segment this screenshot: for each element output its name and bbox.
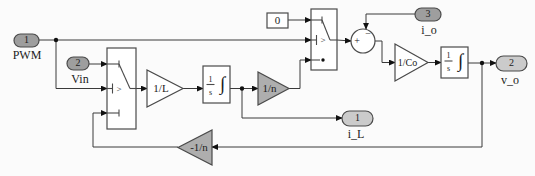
wire-integrator1-to-outport-il[interactable] xyxy=(242,89,342,119)
inport-vin-number: 2 xyxy=(76,57,81,68)
gain-neg1n-label: -1/n xyxy=(190,141,208,153)
inport-pwm-label: PWM xyxy=(13,48,42,62)
svg-text:s: s xyxy=(447,64,450,73)
inport-vin-label: Vin xyxy=(71,72,88,86)
gain-1n-block[interactable]: 1/n xyxy=(258,72,289,105)
sum-block[interactable]: + − xyxy=(351,28,375,53)
gain-1Co-label: 1/Co xyxy=(398,57,417,68)
sum-minus-sign: − xyxy=(365,28,371,39)
wire-io-to-sum[interactable] xyxy=(366,14,415,29)
inport-io-label: i_o xyxy=(421,23,436,37)
svg-text:1: 1 xyxy=(209,75,213,84)
switch2-lower-port-icon xyxy=(321,58,324,61)
gain-neg1n-block[interactable]: -1/n xyxy=(178,130,212,165)
wire-sum-to-gain1Co[interactable] xyxy=(375,41,395,63)
integrator2-block[interactable]: 1 s ∫ xyxy=(441,47,468,78)
junction-dot-il xyxy=(240,86,244,90)
outport-vo-number: 2 xyxy=(509,57,514,68)
inport-pwm-number: 1 xyxy=(24,34,29,45)
junction-dot-pwm xyxy=(54,38,58,42)
integrator1-block[interactable]: 1 s ∫ xyxy=(203,66,230,103)
switch1-criteria-label: > xyxy=(116,84,121,94)
svg-text:1: 1 xyxy=(447,51,451,60)
constant-value: 0 xyxy=(275,14,281,26)
outport-vo[interactable]: 2 v_o xyxy=(496,56,527,87)
constant-block[interactable]: 0 xyxy=(267,13,288,28)
switch2-block[interactable]: > xyxy=(311,9,337,70)
integrator2-shape[interactable] xyxy=(441,47,468,78)
switch2-criteria-label: > xyxy=(320,35,325,45)
gain-1L-block[interactable]: 1/L xyxy=(147,70,183,107)
wire-gain1n-to-switch2[interactable] xyxy=(289,60,311,89)
outport-il[interactable]: 1 i_L xyxy=(342,111,373,141)
gain-1Co-block[interactable]: 1/Co xyxy=(395,44,428,81)
inport-pwm[interactable]: 1 PWM xyxy=(13,34,42,62)
wire-switch2-to-sum[interactable] xyxy=(337,40,351,41)
gain-1n-label: 1/n xyxy=(262,82,277,94)
inport-vin[interactable]: 2 Vin xyxy=(67,57,89,86)
switch1-block[interactable]: > xyxy=(107,48,136,129)
inport-io-number: 3 xyxy=(426,8,431,19)
gain-1L-label: 1/L xyxy=(153,82,169,94)
sum-plus-sign: + xyxy=(354,35,360,46)
svg-text:s: s xyxy=(209,88,212,97)
inport-io[interactable]: 3 i_o xyxy=(415,8,441,37)
outport-vo-label: v_o xyxy=(501,73,519,87)
outport-il-number: 1 xyxy=(355,112,360,123)
simulink-diagram-canvas: 1 PWM 2 Vin 3 i_o 1 i_L 2 v_o 0 xyxy=(0,0,535,176)
junction-dot-vo xyxy=(480,61,484,65)
outport-il-label: i_L xyxy=(348,127,365,141)
